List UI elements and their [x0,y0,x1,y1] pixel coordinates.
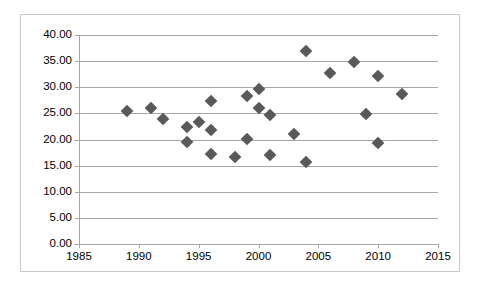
y-tick-label: 10.00 [43,186,72,198]
y-tick-mark [75,113,79,114]
x-tick-mark [199,244,200,248]
data-point [372,136,385,149]
plot-area: 0.005.0010.0015.0020.0025.0030.0035.0040… [79,35,438,244]
data-point [264,149,277,162]
y-tick-mark [75,192,79,193]
y-tick-mark [75,140,79,141]
y-tick-label: 30.00 [43,82,72,94]
y-tick-mark [75,35,79,36]
data-point [204,123,217,136]
y-tick-label: 40.00 [43,29,72,41]
x-tick-label: 1985 [66,251,92,263]
x-tick-mark [378,244,379,248]
x-tick-mark [318,244,319,248]
data-point [252,82,265,95]
data-point [240,89,253,102]
y-tick-label: 5.00 [50,212,72,224]
data-point [372,70,385,83]
y-tick-mark [75,61,79,62]
x-tick-label: 2000 [246,251,272,263]
data-point [156,113,169,126]
x-tick-label: 2005 [306,251,332,263]
chart-frame: 0.005.0010.0015.0020.0025.0030.0035.0040… [20,14,460,272]
y-tick-mark [75,166,79,167]
data-point [228,151,241,164]
x-tick-label: 1995 [186,251,212,263]
x-tick-label: 2015 [425,251,451,263]
x-tick-mark [79,244,80,248]
data-point [300,44,313,57]
x-tick-mark [259,244,260,248]
gridline [79,140,438,141]
x-tick-mark [139,244,140,248]
x-tick-mark [438,244,439,248]
y-tick-label: 0.00 [50,238,72,250]
data-point [348,56,361,69]
y-tick-mark [75,218,79,219]
y-tick-label: 35.00 [43,55,72,67]
gridline [79,35,438,36]
gridline [79,61,438,62]
x-tick-label: 1990 [126,251,152,263]
data-point [120,105,133,118]
data-point [204,94,217,107]
gridline [79,218,438,219]
gridline [79,192,438,193]
gridline [79,166,438,167]
data-point [180,135,193,148]
y-tick-mark [75,87,79,88]
data-point [192,115,205,128]
data-point [396,87,409,100]
data-point [360,108,373,121]
data-point [324,66,337,79]
data-point [180,121,193,134]
data-point [300,156,313,169]
y-tick-label: 25.00 [43,108,72,120]
y-tick-label: 20.00 [43,134,72,146]
data-point [240,133,253,146]
data-point [204,147,217,160]
data-point [264,109,277,122]
scatter-chart-figure: 0.005.0010.0015.0020.0025.0030.0035.0040… [0,0,490,295]
y-tick-label: 15.00 [43,160,72,172]
x-tick-label: 2010 [365,251,391,263]
